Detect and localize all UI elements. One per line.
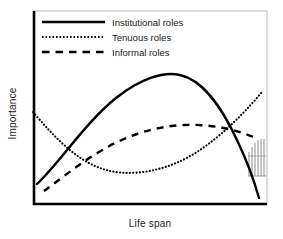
legend-label-institutional-roles: Institutional roles (112, 17, 184, 28)
legend-label-tenuous-roles: Tenuous roles (112, 32, 171, 43)
chart-figure: Institutional roles Tenuous roles Inform… (0, 0, 283, 239)
legend-label-informal-roles: Informal roles (112, 47, 170, 58)
y-axis-title: Importance (7, 78, 18, 150)
x-axis-title: Life span (33, 218, 267, 229)
life-span-roles-chart: Institutional roles Tenuous roles Inform… (0, 0, 283, 239)
